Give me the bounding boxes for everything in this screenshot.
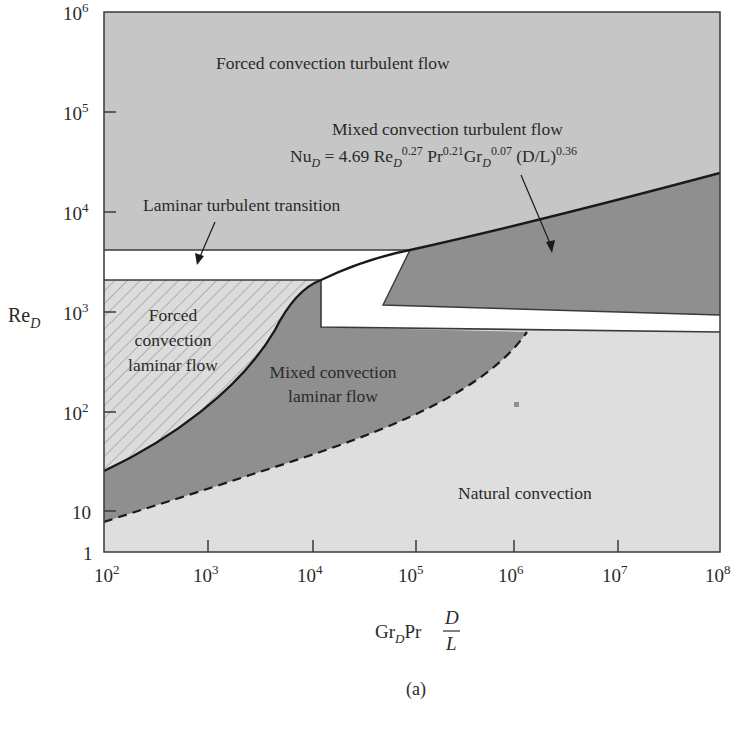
svg-text:L: L (445, 633, 457, 654)
label-forced-turbulent: Forced convection turbulent flow (216, 53, 450, 73)
x-axis-label: GrDPr D L (375, 607, 460, 654)
svg-text:105: 105 (398, 562, 424, 586)
label-mixed-turbulent: Mixed convection turbulent flow (332, 119, 563, 139)
svg-text:102: 102 (94, 562, 120, 586)
svg-text:103: 103 (193, 562, 219, 586)
figure-caption: (a) (406, 679, 426, 700)
svg-text:102: 102 (63, 400, 89, 424)
svg-text:106: 106 (498, 562, 524, 586)
svg-text:Forced: Forced (149, 305, 198, 325)
svg-text:Mixed convection: Mixed convection (270, 362, 397, 382)
svg-text:103: 103 (63, 300, 89, 324)
svg-text:105: 105 (63, 100, 89, 124)
svg-text:1: 1 (83, 543, 93, 564)
svg-text:107: 107 (602, 562, 628, 586)
regime-map-figure: 106 105 104 103 102 10 1 ReD 102 103 104… (0, 0, 746, 756)
svg-text:D: D (444, 607, 459, 628)
plot-area (104, 12, 720, 552)
svg-text:104: 104 (63, 200, 89, 224)
y-axis-tick-labels: 106 105 104 103 102 10 1 (63, 0, 93, 564)
svg-text:104: 104 (297, 562, 323, 586)
y-axis-label: ReD (8, 304, 40, 331)
svg-text:108: 108 (705, 562, 731, 586)
svg-text:laminar flow: laminar flow (288, 386, 378, 406)
svg-text:convection: convection (135, 330, 212, 350)
svg-text:laminar flow: laminar flow (128, 355, 218, 375)
label-natural-convection: Natural convection (458, 483, 592, 503)
svg-text:106: 106 (63, 0, 89, 24)
svg-text:10: 10 (72, 502, 91, 523)
x-axis-tick-labels: 102 103 104 105 106 107 108 (94, 562, 731, 586)
svg-text:GrDPr: GrDPr (375, 621, 422, 646)
label-transition: Laminar turbulent transition (143, 195, 341, 215)
